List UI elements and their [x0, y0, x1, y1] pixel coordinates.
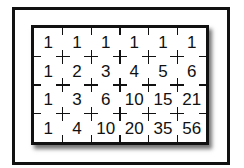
- grid-cell: 35: [149, 120, 178, 137]
- grid-cross-mark: [62, 107, 64, 121]
- grid-cross-mark: [62, 135, 64, 142]
- grid-cross-mark: [148, 78, 150, 92]
- grid-cross-mark: [148, 135, 150, 142]
- grid-cross-mark: [199, 84, 206, 86]
- grid-cross-mark: [91, 28, 93, 35]
- grid-cell: 1: [34, 34, 63, 51]
- grid-cell: 20: [120, 120, 149, 137]
- grid-cell: 4: [63, 120, 92, 137]
- grid-cross-mark: [119, 135, 121, 142]
- grid-cross-mark: [34, 56, 41, 58]
- grid-cell: 3: [91, 63, 120, 80]
- grid-cross-mark: [62, 78, 64, 92]
- grid-cross-mark: [91, 50, 93, 64]
- grid-cell: 1: [91, 34, 120, 51]
- grid-cross-mark: [91, 107, 93, 121]
- grid-cell: 1: [149, 34, 178, 51]
- grid-cross-mark: [148, 28, 150, 35]
- grid-cell: 1: [120, 34, 149, 51]
- grid-cross-mark: [62, 28, 64, 35]
- grid-cross-mark: [177, 78, 179, 92]
- grid-cell: 5: [149, 63, 178, 80]
- grid-cross-mark: [62, 50, 64, 64]
- grid-cross-mark: [119, 78, 121, 92]
- grid-cell: 1: [34, 120, 63, 137]
- grid-cross-mark: [34, 113, 41, 115]
- grid-cell: 4: [120, 63, 149, 80]
- grid-cell: 6: [91, 91, 120, 108]
- grid-cell: 21: [177, 91, 206, 108]
- grid-cross-mark: [148, 50, 150, 64]
- grid-cell: 15: [149, 91, 178, 108]
- grid-cross-mark: [119, 107, 121, 121]
- number-grid-panel: 1111111234561361015211410203556: [31, 25, 209, 145]
- grid-cross-mark: [177, 107, 179, 121]
- grid-cell: 1: [177, 34, 206, 51]
- grid-cell: 2: [63, 63, 92, 80]
- grid-cross-mark: [119, 50, 121, 64]
- grid-cross-mark: [91, 78, 93, 92]
- grid-cell: 10: [91, 120, 120, 137]
- grid-cross-mark: [177, 135, 179, 142]
- grid-cell: 1: [63, 34, 92, 51]
- grid-cell: 1: [34, 91, 63, 108]
- grid-cell: 1: [34, 63, 63, 80]
- grid-cell: 10: [120, 91, 149, 108]
- grid-cross-mark: [91, 135, 93, 142]
- grid-cell: 6: [177, 63, 206, 80]
- grid-cross-mark: [199, 113, 206, 115]
- grid-cross-mark: [34, 84, 41, 86]
- grid-cross-mark: [177, 28, 179, 35]
- grid-cell: 3: [63, 91, 92, 108]
- grid-cross-mark: [119, 28, 121, 35]
- grid-cross-mark: [148, 107, 150, 121]
- grid-cross-mark: [177, 50, 179, 64]
- grid-cross-mark: [199, 56, 206, 58]
- grid-cell: 56: [177, 120, 206, 137]
